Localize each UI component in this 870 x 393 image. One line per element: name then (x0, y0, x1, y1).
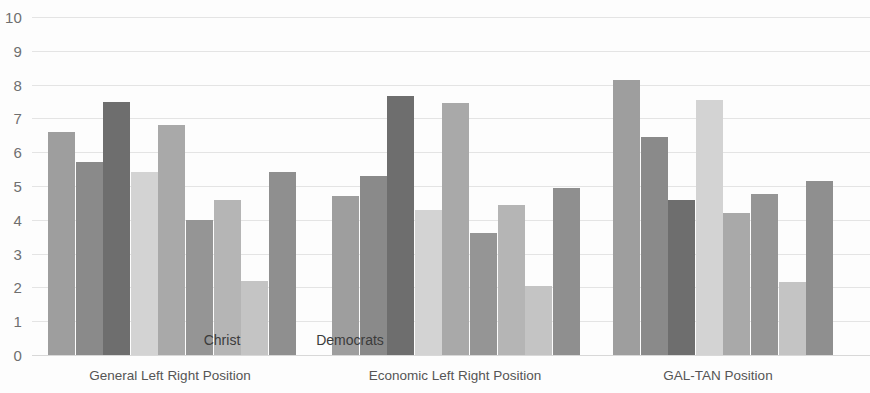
y-axis: 012345678910 (0, 0, 30, 393)
annotation-christ: Christ (204, 332, 241, 348)
bar (553, 188, 580, 355)
bar (442, 103, 469, 355)
bar (131, 172, 158, 355)
bar-chart: 012345678910 General Left Right Position… (0, 0, 870, 393)
bar (241, 281, 268, 355)
y-tick-label-2: 2 (13, 279, 22, 296)
bar (103, 102, 130, 356)
y-tick-label-6: 6 (13, 144, 22, 161)
y-tick-label-1: 1 (13, 313, 22, 330)
y-tick-label-3: 3 (13, 245, 22, 262)
y-tick-label-10: 10 (5, 9, 22, 26)
plot-area (32, 17, 870, 355)
gridline-0 (32, 355, 870, 356)
bar (641, 137, 668, 355)
gridline-8 (32, 85, 870, 86)
y-tick-label-7: 7 (13, 110, 22, 127)
bar (751, 194, 778, 355)
bar (806, 181, 833, 355)
bar (779, 282, 806, 355)
bar (525, 286, 552, 355)
x-axis-label-2: Economic Left Right Position (369, 368, 542, 383)
x-axis-label-3: GAL-TAN Position (663, 368, 772, 383)
bar (48, 132, 75, 355)
y-tick-label-9: 9 (13, 42, 22, 59)
bar (387, 96, 414, 355)
bar (158, 125, 185, 355)
bar (360, 176, 387, 355)
y-tick-label-8: 8 (13, 76, 22, 93)
annotation-democrats: Democrats (316, 332, 384, 348)
bar (668, 200, 695, 355)
bar (470, 233, 497, 355)
bar (723, 213, 750, 355)
bar (76, 162, 103, 355)
y-tick-label-0: 0 (13, 347, 22, 364)
gridline-10 (32, 17, 870, 18)
bar (415, 210, 442, 355)
gridline-9 (32, 51, 870, 52)
bar (696, 100, 723, 355)
bar (269, 172, 296, 355)
y-tick-label-5: 5 (13, 178, 22, 195)
bar (613, 80, 640, 355)
y-tick-label-4: 4 (13, 211, 22, 228)
x-axis-label-1: General Left Right Position (89, 368, 250, 383)
bar (498, 205, 525, 355)
